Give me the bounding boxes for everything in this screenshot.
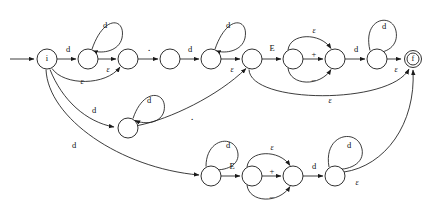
edge-group-self-loops-top [92,20,396,52]
edge-label-n6-n7-plus: + [312,49,317,59]
state-node-7[interactable] [325,49,345,69]
edge-label-b4-self-d: d [347,140,352,150]
edge-n6-n7-minus-arc [288,68,331,82]
edge-label-b2-b3-plus: + [270,166,275,176]
state-node-b3[interactable] [283,166,303,186]
node-label-f: f [412,53,415,63]
edge-label-b4-nf-eps: ε [355,178,359,187]
edge-n5-nf-eps [249,69,409,96]
edge-label-n2-n3-dot: . [148,41,151,53]
edge-label-b2-b3-eps: ε [270,143,274,152]
automaton-canvas: i f d d ε ε . d d ε E + ε − d d ε ε d d … [0,0,432,212]
state-node-5[interactable] [242,49,262,69]
state-node-2[interactable] [118,49,138,69]
edge-label-n0-m1-d: d [92,105,97,115]
state-node-b4[interactable] [325,166,345,186]
edge-label-b3-b4-d: d [312,161,317,171]
self-loop-n4-d [215,23,245,52]
edge-b2-b3-eps-arc [247,154,290,167]
edge-label-n4-n5-eps: ε [230,65,234,74]
edge-label-n3-n4-d: d [188,44,193,54]
edge-label-n0-n1-d: d [66,44,71,54]
edge-label-b1-self-d: d [226,140,231,150]
state-node-4[interactable] [201,49,221,69]
edge-label-n6-n7-eps: ε [312,26,316,35]
edge-group-long-eps-n5-nf [249,69,409,96]
edge-label-n5-nf-eps: ε [328,96,332,105]
edge-label-m1-n5-dot: . [191,110,194,122]
edge-label-n0-b1-d: d [72,140,77,150]
edge-n6-n7-eps-arc [288,37,331,50]
self-loop-b4-d [328,136,362,169]
edge-label-n1-n2-eps: ε [106,65,110,74]
edge-label-n8-nf-eps: ε [394,65,398,74]
edge-label-m1-self-d: d [147,95,152,105]
edge-b4-nf-eps [344,70,413,172]
state-node-3[interactable] [160,49,180,69]
edge-label-b1-b2-E: E [229,161,234,171]
state-node-m1[interactable] [118,118,138,138]
edge-group-b4-nf [344,70,413,172]
edge-label-b2-b3-minus: − [270,192,275,202]
state-node-1[interactable] [78,49,98,69]
edge-label-n8-self-d: d [382,21,387,31]
node-label-group: i f [46,53,415,63]
edge-label-n5-n6-E: E [269,43,274,53]
state-node-b2[interactable] [242,166,262,186]
self-loop-n1-d [92,23,122,52]
state-node-b1[interactable] [201,166,221,186]
state-node-6[interactable] [283,49,303,69]
state-node-8[interactable] [367,49,387,69]
edge-label-n6-n7-minus: − [312,75,317,85]
edge-b2-b3-minus-arc [247,185,290,199]
edge-label-n7-n8-d: d [354,44,359,54]
automaton-diagram: i f d d ε ε . d d ε E + ε − d d ε ε d d … [0,0,432,212]
